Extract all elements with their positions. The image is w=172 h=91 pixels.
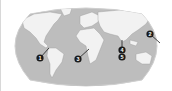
marker-5-label: 5 bbox=[120, 54, 123, 60]
marker-2-label: 2 bbox=[148, 31, 151, 37]
marker-4[interactable]: 4 bbox=[118, 46, 125, 53]
marker-2[interactable]: 2 bbox=[146, 30, 153, 37]
antarctica bbox=[20, 86, 152, 91]
marker-5[interactable]: 5 bbox=[118, 53, 125, 60]
marker-1-label: 1 bbox=[38, 55, 41, 61]
world-map: 1 2 3 4 5 bbox=[0, 0, 172, 91]
marker-3-label: 3 bbox=[76, 56, 79, 62]
marker-1[interactable]: 1 bbox=[36, 54, 43, 61]
marker-3[interactable]: 3 bbox=[74, 55, 81, 62]
